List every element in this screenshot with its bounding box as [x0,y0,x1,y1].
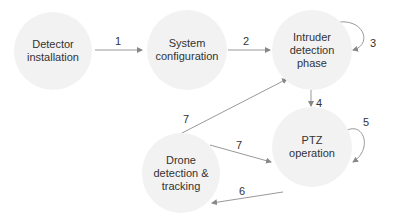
node-label: Detector installation [22,38,84,64]
node-ptz-operation: PTZ operation [272,107,352,187]
edge-label-6: 6 [239,185,245,197]
node-label: System configuration [154,37,220,63]
edge-label-3: 3 [370,37,376,49]
edge-label-5: 5 [363,116,369,128]
edge-label-7b: 7 [236,139,242,151]
node-system-configuration: System configuration [147,10,227,90]
edge-label-4: 4 [316,97,322,109]
edge-label-2: 2 [243,35,249,47]
edge-label-7a: 7 [183,113,189,125]
node-label: PTZ operation [285,134,339,160]
node-label: Drone detection & tracking [153,154,209,193]
node-detector-installation: Detector installation [14,12,92,90]
node-drone-detection-tracking: Drone detection & tracking [142,133,220,213]
node-label: Intruder detection phase [285,31,339,70]
edge-label-1: 1 [115,35,121,47]
node-intruder-detection-phase: Intruder detection phase [272,10,352,90]
edge-6 [212,192,283,203]
